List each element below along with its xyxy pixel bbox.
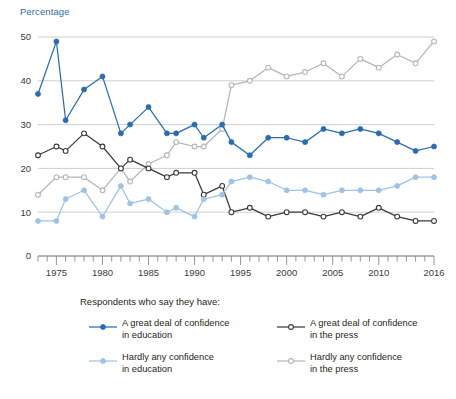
legend-marker-prs_hardly bbox=[276, 355, 306, 367]
x-tick-label-2016: 2016 bbox=[423, 267, 444, 278]
data-point-prs_hardly-1976 bbox=[63, 175, 68, 180]
legend-label-press-hardly: Hardly any confidence in the press bbox=[310, 352, 402, 375]
x-tick-label-1990: 1990 bbox=[184, 267, 205, 278]
data-point-edu_great-1975 bbox=[54, 39, 59, 44]
series-edu_hardly bbox=[36, 175, 437, 224]
data-point-edu_great-1990 bbox=[192, 122, 197, 127]
x-tick-label-1980: 1980 bbox=[92, 267, 113, 278]
data-point-edu_hardly-1998 bbox=[266, 179, 271, 184]
data-point-prs_great-1996 bbox=[247, 205, 252, 210]
data-point-edu_hardly-1990 bbox=[192, 214, 197, 219]
data-point-prs_hardly-1991 bbox=[201, 144, 206, 149]
data-point-prs_hardly-2012 bbox=[395, 52, 400, 57]
x-tick-label-2000: 2000 bbox=[276, 267, 297, 278]
data-point-edu_hardly-2014 bbox=[413, 175, 418, 180]
data-point-prs_hardly-2010 bbox=[376, 65, 381, 70]
data-point-edu_hardly-1982 bbox=[118, 183, 123, 188]
data-point-prs_hardly-1975 bbox=[54, 175, 59, 180]
x-tick-label-2010: 2010 bbox=[368, 267, 389, 278]
series-line-edu_hardly bbox=[38, 177, 434, 221]
legend-marker-edu_hardly bbox=[88, 355, 118, 367]
legend-dot-prs_great bbox=[289, 325, 294, 330]
legend-label-edu-great: A great deal of confidence in education bbox=[122, 318, 230, 341]
data-point-prs_hardly-1990 bbox=[192, 144, 197, 149]
data-point-prs_hardly-1998 bbox=[266, 65, 271, 70]
x-axis bbox=[38, 256, 434, 265]
legend-swatch-press-great bbox=[276, 319, 306, 331]
data-point-prs_hardly-1978 bbox=[82, 175, 87, 180]
data-point-edu_hardly-1994 bbox=[229, 179, 234, 184]
data-point-edu_great-1978 bbox=[82, 87, 87, 92]
data-point-prs_great-1976 bbox=[63, 148, 68, 153]
legend-item-press-great[interactable]: A great deal of confidence in the press bbox=[276, 318, 418, 341]
data-point-prs_great-2014 bbox=[413, 219, 418, 224]
legend-dot-prs_hardly bbox=[289, 359, 294, 364]
data-point-edu_great-2010 bbox=[376, 131, 381, 136]
data-point-edu_great-1983 bbox=[128, 122, 133, 127]
y-tick-0: 0 bbox=[26, 250, 31, 261]
series-edu_great bbox=[36, 39, 437, 158]
y-tick-10: 10 bbox=[20, 207, 31, 218]
data-point-edu_hardly-1993 bbox=[220, 192, 225, 197]
data-point-prs_hardly-1980 bbox=[100, 188, 105, 193]
data-point-prs_hardly-2014 bbox=[413, 61, 418, 66]
legend-marker-prs_great bbox=[276, 321, 306, 333]
data-point-prs_hardly-1988 bbox=[174, 140, 179, 145]
legend-swatch-edu-great bbox=[88, 319, 118, 331]
data-point-edu_hardly-2008 bbox=[358, 188, 363, 193]
data-point-edu_great-1973 bbox=[36, 91, 41, 96]
data-point-edu_great-1991 bbox=[201, 135, 206, 140]
data-point-prs_great-2000 bbox=[284, 210, 289, 215]
data-point-prs_great-1978 bbox=[82, 131, 87, 136]
data-point-edu_hardly-1980 bbox=[100, 214, 105, 219]
data-point-prs_hardly-2008 bbox=[358, 57, 363, 62]
data-point-edu_hardly-2004 bbox=[321, 192, 326, 197]
data-point-edu_hardly-1987 bbox=[164, 210, 169, 215]
data-point-prs_great-1990 bbox=[192, 170, 197, 175]
y-tick-40: 40 bbox=[20, 75, 31, 86]
data-point-edu_hardly-1991 bbox=[201, 197, 206, 202]
data-point-edu_great-2000 bbox=[284, 135, 289, 140]
y-tick-50: 50 bbox=[20, 31, 31, 42]
data-point-edu_hardly-1978 bbox=[82, 188, 87, 193]
data-point-edu_great-1993 bbox=[220, 122, 225, 127]
data-point-edu_great-1987 bbox=[164, 131, 169, 136]
data-point-edu_great-1996 bbox=[247, 153, 252, 158]
data-point-prs_great-2010 bbox=[376, 205, 381, 210]
x-tick-label-1975: 1975 bbox=[46, 267, 67, 278]
data-point-edu_great-1976 bbox=[63, 118, 68, 123]
data-point-prs_great-2008 bbox=[358, 214, 363, 219]
legend-item-edu-great[interactable]: A great deal of confidence in education bbox=[88, 318, 230, 341]
data-point-edu_great-1985 bbox=[146, 105, 151, 110]
data-point-edu_hardly-1983 bbox=[128, 201, 133, 206]
legend-item-press-hardly[interactable]: Hardly any confidence in the press bbox=[276, 352, 402, 375]
series-line-prs_hardly bbox=[38, 41, 434, 194]
data-point-prs_great-1980 bbox=[100, 144, 105, 149]
chart-legend: Respondents who say they have: A great d… bbox=[0, 296, 456, 399]
legend-caption: Respondents who say they have: bbox=[80, 296, 220, 307]
x-axis-tick-labels: 197519801985199019952000200520102016 bbox=[46, 267, 445, 278]
series-line-prs_great bbox=[38, 133, 434, 221]
data-point-prs_hardly-2000 bbox=[284, 74, 289, 79]
data-point-prs_great-1973 bbox=[36, 153, 41, 158]
data-point-edu_hardly-1996 bbox=[247, 175, 252, 180]
data-point-prs_great-1987 bbox=[165, 175, 170, 180]
legend-item-edu-hardly[interactable]: Hardly any confidence in education bbox=[88, 352, 214, 375]
data-point-edu_great-2008 bbox=[358, 126, 363, 131]
data-point-prs_great-1988 bbox=[174, 170, 179, 175]
y-axis-tick-labels: 01020304050 bbox=[20, 31, 31, 261]
chart-root: Percentage 01020304050 19751980198519901… bbox=[0, 0, 456, 399]
data-point-prs_great-1998 bbox=[266, 214, 271, 219]
data-point-edu_hardly-2012 bbox=[395, 183, 400, 188]
data-point-edu_hardly-2016 bbox=[432, 175, 437, 180]
data-point-prs_hardly-1987 bbox=[165, 153, 170, 158]
x-tick-label-1985: 1985 bbox=[138, 267, 159, 278]
y-tick-30: 30 bbox=[20, 119, 31, 130]
data-point-edu_great-2016 bbox=[432, 144, 437, 149]
data-point-edu_hardly-1976 bbox=[63, 197, 68, 202]
data-point-prs_great-2016 bbox=[432, 219, 437, 224]
x-tick-label-2005: 2005 bbox=[322, 267, 343, 278]
data-point-edu_hardly-1988 bbox=[174, 205, 179, 210]
data-point-prs_hardly-2016 bbox=[432, 39, 437, 44]
data-point-edu_great-1988 bbox=[174, 131, 179, 136]
